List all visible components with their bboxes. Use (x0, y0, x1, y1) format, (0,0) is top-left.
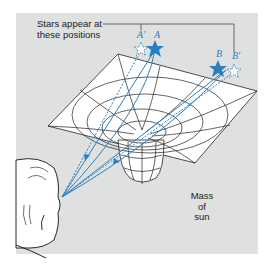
star-a-actual-icon (146, 40, 164, 57)
star-label-a-actual: A (154, 29, 160, 40)
leader-line (103, 24, 234, 52)
caption-line-1: Stars appear at (37, 19, 102, 30)
caption-line-2: these positions (37, 30, 102, 41)
star-b-apparent-icon (227, 64, 241, 78)
star-b-actual-icon (209, 60, 227, 77)
caption-label: Stars appear at these positions (37, 19, 102, 40)
ray-arrowheads (84, 154, 120, 164)
star-a-apparent-icon (134, 42, 148, 56)
mass-of-sun-label: Mass of sun (187, 191, 217, 223)
observer-head (16, 159, 60, 258)
star-label-b-actual: B (216, 48, 222, 59)
star-label-a-apparent: A′ (137, 29, 145, 40)
mass-label-line-1: Mass (187, 191, 217, 202)
mass-label-line-3: sun (187, 212, 217, 223)
star-label-b-apparent: B′ (232, 50, 240, 61)
